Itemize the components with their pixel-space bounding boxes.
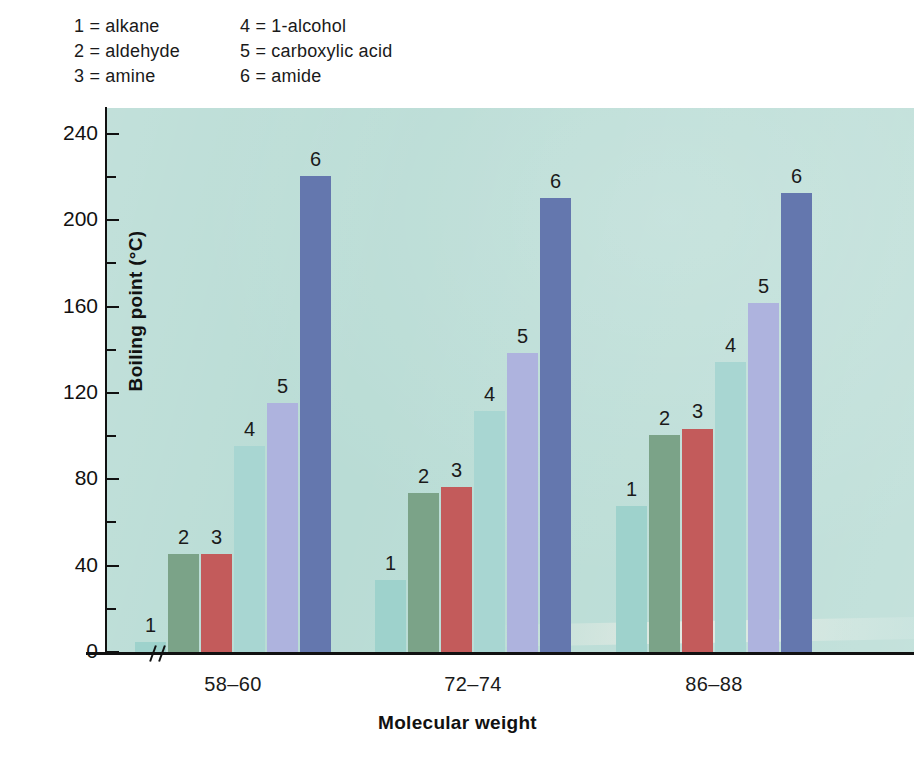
y-tick-minor-140 xyxy=(107,349,116,351)
bar-code-label-2-6: 6 xyxy=(536,170,576,193)
y-tick-minor-20 xyxy=(107,608,116,610)
y-tick-minor-220 xyxy=(107,176,116,178)
bar-code-label-3-5: 5 xyxy=(744,275,784,298)
bar-code-label-2-3: 3 xyxy=(437,459,477,482)
legend-entry-6: 6 = amide xyxy=(240,66,554,87)
y-tick-minor-180 xyxy=(107,262,116,264)
bar-group-3-series-4 xyxy=(715,362,746,653)
y-tick-major-80 xyxy=(107,478,119,480)
bar-code-label-3-1: 1 xyxy=(612,478,652,501)
y-tick-label-40: 40 xyxy=(2,553,98,577)
x-axis-title: Molecular weight xyxy=(0,712,915,734)
y-tick-minor-100 xyxy=(107,435,116,437)
y-tick-label-80: 80 xyxy=(2,466,98,490)
legend-entry-1: 1 = alkane xyxy=(74,16,240,37)
legend-entry-2: 2 = aldehyde xyxy=(74,41,240,62)
bar-group-3-series-6 xyxy=(781,193,812,653)
y-tick-major-240 xyxy=(107,133,119,135)
x-tick-label-1: 58–60 xyxy=(153,673,313,696)
bar-group-1-series-6 xyxy=(300,176,331,653)
x-tick-label-2: 72–74 xyxy=(393,673,553,696)
y-axis-title: Boiling point (°C) xyxy=(125,161,147,461)
bar-group-2-series-1 xyxy=(375,580,406,653)
bar-group-2-series-5 xyxy=(507,353,538,653)
y-tick-label-200: 200 xyxy=(2,207,98,231)
bar-code-label-1-4: 4 xyxy=(230,418,270,441)
bar-code-label-1-3: 3 xyxy=(197,526,237,549)
bar-group-3-series-5 xyxy=(748,303,779,653)
y-tick-major-40 xyxy=(107,565,119,567)
bar-group-2-series-3 xyxy=(441,487,472,653)
legend-entry-4: 4 = 1-alcohol xyxy=(240,16,554,37)
y-tick-label-240: 240 xyxy=(2,121,98,145)
bar-group-1-series-4 xyxy=(234,446,265,653)
bar-code-label-2-5: 5 xyxy=(503,325,543,348)
bar-group-2-series-2 xyxy=(408,493,439,653)
y-tick-label-120: 120 xyxy=(2,380,98,404)
bar-code-label-3-4: 4 xyxy=(711,334,751,357)
y-tick-minor-60 xyxy=(107,521,116,523)
bar-group-2-series-6 xyxy=(540,198,571,653)
x-axis-line xyxy=(106,652,914,655)
y-tick-major-0 xyxy=(107,651,119,653)
bar-code-label-1-1: 1 xyxy=(131,614,171,637)
bar-code-label-3-6: 6 xyxy=(777,165,817,188)
bar-code-label-3-3: 3 xyxy=(678,400,718,423)
x-tick-label-3: 86–88 xyxy=(634,673,794,696)
chart-plot-area: 123456123456123456 xyxy=(106,108,914,653)
bar-code-label-2-4: 4 xyxy=(470,383,510,406)
bar-group-3-series-1 xyxy=(616,506,647,653)
bar-group-1-series-5 xyxy=(267,403,298,653)
bar-code-label-1-6: 6 xyxy=(296,148,336,171)
y-tick-major-160 xyxy=(107,306,119,308)
y-tick-major-120 xyxy=(107,392,119,394)
y-tick-label-160: 160 xyxy=(2,294,98,318)
legend-entry-5: 5 = carboxylic acid xyxy=(240,41,554,62)
bar-group-1-series-3 xyxy=(201,554,232,653)
y-axis-line xyxy=(105,107,107,654)
y-tick-label-0: 0 xyxy=(2,639,98,663)
bar-code-label-2-1: 1 xyxy=(371,552,411,575)
bar-group-3-series-3 xyxy=(682,429,713,654)
bar-group-2-series-4 xyxy=(474,411,505,653)
bar-group-1-series-2 xyxy=(168,554,199,653)
y-tick-major-200 xyxy=(107,219,119,221)
legend-entry-3: 3 = amine xyxy=(74,66,240,87)
bar-code-label-1-5: 5 xyxy=(263,375,303,398)
series-legend: 1 = alkane 4 = 1-alcohol 2 = aldehyde 5 … xyxy=(74,14,554,90)
bar-group-3-series-2 xyxy=(649,435,680,653)
